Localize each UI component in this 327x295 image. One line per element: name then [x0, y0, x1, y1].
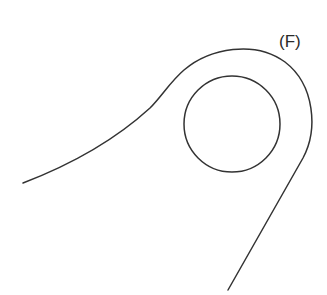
diagram-canvas: (F) — [0, 0, 327, 295]
diagram-drawing — [0, 0, 327, 295]
figure-label: (F) — [279, 33, 301, 50]
outer-loop-curve — [23, 49, 312, 290]
inner-circle — [184, 76, 280, 172]
